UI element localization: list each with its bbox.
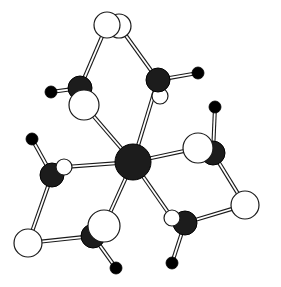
- atom-o10: oxygen lower-right: [164, 210, 180, 226]
- atom-h3: hydrogen left: [26, 133, 38, 145]
- atom-o5: oxygen left-front: [56, 159, 72, 175]
- atom-o9: oxygen lower-center: [88, 210, 120, 242]
- atom-o8: oxygen bottom-left: [14, 229, 42, 257]
- atom-h4: hydrogen right: [209, 101, 221, 113]
- atom-m1: central metal: [115, 144, 151, 180]
- atom-c2: carbon upper-right: [146, 68, 170, 92]
- atom-h1: hydrogen upper-left: [45, 86, 57, 98]
- molecule-canvas: oxygen top-backoxygen top-frontoxygen fa…: [0, 0, 281, 287]
- atom-h2: hydrogen upper-right: [192, 67, 204, 79]
- molecular-structure-figure: oxygen top-backoxygen top-frontoxygen fa…: [0, 0, 281, 287]
- atom-o6: oxygen right: [183, 133, 213, 163]
- atom-o7: oxygen far-right: [231, 191, 259, 219]
- atom-o2: oxygen top-front: [94, 12, 120, 38]
- atom-h6: hydrogen bottom-right: [166, 257, 178, 269]
- atom-o3: oxygen upper-left: [69, 90, 99, 120]
- atom-h5: hydrogen bottom: [110, 262, 122, 274]
